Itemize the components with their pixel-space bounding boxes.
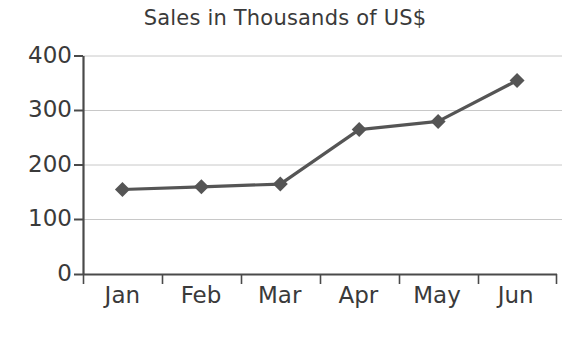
gridlines xyxy=(83,56,562,220)
series-markers-sales xyxy=(115,73,525,197)
x-tick-label-jun: Jun xyxy=(476,284,555,324)
x-tick-label-may: May xyxy=(398,284,477,324)
data-point-may xyxy=(431,114,446,129)
data-point-feb xyxy=(194,179,209,194)
x-tick-label-jan: Jan xyxy=(83,284,162,324)
data-point-jan xyxy=(115,182,130,197)
x-tick-label-feb: Feb xyxy=(162,284,241,324)
x-tick-label-mar: Mar xyxy=(240,284,319,324)
data-point-jun xyxy=(510,73,525,88)
y-axis-ticks xyxy=(74,56,83,275)
line-chart: Sales in Thousands of US$ 400 300 200 10… xyxy=(0,0,570,342)
x-axis-tick-labels: Jan Feb Mar Apr May Jun xyxy=(83,284,555,324)
x-tick-label-apr: Apr xyxy=(319,284,398,324)
series-line-sales xyxy=(122,81,517,190)
